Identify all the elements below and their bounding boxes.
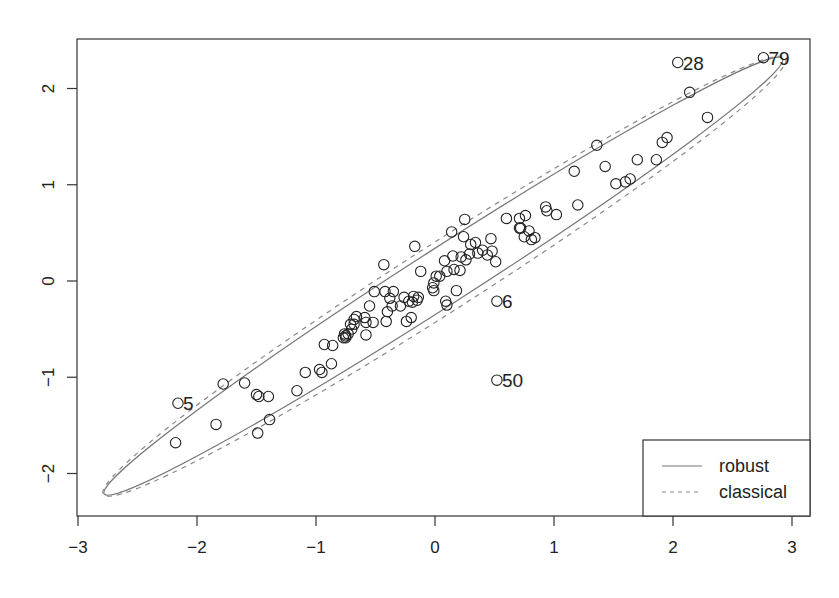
data-point <box>542 206 552 216</box>
data-point <box>239 378 249 388</box>
point-label-79: 79 <box>768 48 789 69</box>
x-tick-label: 3 <box>787 538 796 557</box>
data-point <box>520 210 530 220</box>
data-point <box>317 367 327 377</box>
legend-box <box>643 440 810 516</box>
x-tick-label: 0 <box>430 538 439 557</box>
data-point <box>492 296 502 306</box>
legend-classical-label: classical <box>719 482 787 502</box>
data-points <box>170 53 768 448</box>
data-point <box>673 57 683 67</box>
legend: robust classical <box>643 440 810 516</box>
data-point <box>252 428 262 438</box>
x-axis: −3−2−10123 <box>68 516 796 557</box>
data-point <box>361 330 371 340</box>
y-tick-label: 2 <box>39 84 58 93</box>
data-point <box>492 375 502 385</box>
data-point <box>651 155 661 165</box>
data-point <box>263 391 273 401</box>
x-tick-label: 1 <box>549 538 558 557</box>
data-point <box>632 155 642 165</box>
data-point <box>416 266 426 276</box>
point-labels: 28795650 <box>183 48 790 415</box>
chart-canvas: −3−2−10123 −2−1012 28795650 robust class… <box>0 0 839 598</box>
data-point <box>368 317 378 327</box>
x-tick-label: 2 <box>668 538 677 557</box>
point-label-28: 28 <box>683 53 704 74</box>
data-point <box>379 259 389 269</box>
y-tick-label: −2 <box>39 464 58 483</box>
data-point <box>381 316 391 326</box>
data-point <box>530 232 540 242</box>
point-label-50: 50 <box>502 370 523 391</box>
data-point <box>326 359 336 369</box>
data-point <box>611 179 621 189</box>
point-label-5: 5 <box>183 393 194 414</box>
data-point <box>300 367 310 377</box>
data-point <box>218 379 228 389</box>
legend-robust-label: robust <box>719 456 769 476</box>
y-tick-label: −1 <box>39 368 58 387</box>
data-point <box>364 301 374 311</box>
y-tick-label: 0 <box>39 276 58 285</box>
data-point <box>211 419 221 429</box>
data-point <box>551 209 561 219</box>
data-point <box>514 213 524 223</box>
data-point <box>446 227 456 237</box>
y-tick-label: 1 <box>39 180 58 189</box>
data-point <box>314 364 324 374</box>
data-point <box>410 241 420 251</box>
point-label-6: 6 <box>502 291 513 312</box>
data-point <box>173 398 183 408</box>
data-point <box>501 213 511 223</box>
data-point <box>569 166 579 176</box>
data-point <box>455 265 465 275</box>
data-point <box>460 214 470 224</box>
data-point <box>254 391 264 401</box>
data-point <box>292 386 302 396</box>
data-point <box>573 200 583 210</box>
data-point <box>451 285 461 295</box>
data-point <box>170 438 180 448</box>
x-tick-label: −3 <box>68 538 87 557</box>
x-tick-label: −2 <box>187 538 206 557</box>
x-tick-label: −1 <box>306 538 325 557</box>
data-point <box>600 161 610 171</box>
data-point <box>486 233 496 243</box>
data-point <box>702 112 712 122</box>
y-axis: −2−1012 <box>39 84 78 483</box>
data-point <box>442 266 452 276</box>
